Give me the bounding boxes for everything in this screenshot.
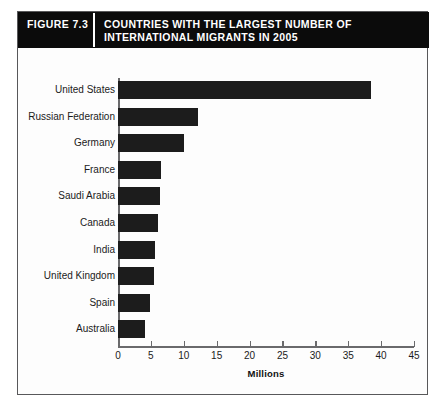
bar — [118, 214, 158, 232]
x-axis-tick — [348, 341, 349, 347]
x-axis-tick — [217, 341, 218, 347]
x-axis-tick — [282, 341, 283, 347]
bar — [118, 134, 184, 152]
bar — [118, 241, 155, 259]
x-axis-tick — [184, 341, 185, 347]
x-axis-tick — [250, 341, 251, 347]
category-label: Canada — [21, 217, 115, 229]
bar — [118, 108, 198, 126]
x-axis-tick-label: 5 — [136, 350, 166, 361]
x-axis-tick — [381, 341, 382, 347]
x-axis-title: Millions — [118, 368, 414, 379]
figure-number-label: FIGURE 7.3 — [18, 12, 93, 48]
bar — [118, 161, 161, 179]
figure-container: FIGURE 7.3 COUNTRIES WITH THE LARGEST NU… — [17, 11, 428, 395]
x-axis-line — [118, 346, 414, 348]
x-axis-tick-label: 10 — [169, 350, 199, 361]
chart-plot-area: United StatesRussian FederationGermanyFr… — [18, 48, 429, 395]
x-axis-tick-label: 35 — [333, 350, 363, 361]
bar — [118, 320, 145, 338]
x-axis-tick-label: 25 — [267, 350, 297, 361]
x-axis-tick-label: 40 — [366, 350, 396, 361]
x-axis-tick-label: 15 — [202, 350, 232, 361]
x-axis-tick — [118, 341, 119, 347]
category-label: Spain — [21, 297, 115, 309]
x-axis-tick-label: 45 — [399, 350, 429, 361]
bar — [118, 294, 150, 312]
x-axis-tick-label: 30 — [300, 350, 330, 361]
x-axis-tick-label: 0 — [103, 350, 133, 361]
x-axis-tick — [315, 341, 316, 347]
category-label: Germany — [21, 137, 115, 149]
figure-header-banner: FIGURE 7.3 COUNTRIES WITH THE LARGEST NU… — [18, 12, 429, 48]
category-label: United States — [21, 84, 115, 96]
category-label: France — [21, 164, 115, 176]
figure-title: COUNTRIES WITH THE LARGEST NUMBER OF INT… — [95, 12, 429, 48]
category-label: Saudi Arabia — [21, 190, 115, 202]
category-label: Russian Federation — [21, 111, 115, 123]
category-label: United Kingdom — [21, 270, 115, 282]
bar — [118, 267, 154, 285]
x-axis-tick — [414, 341, 415, 347]
x-axis-tick-label: 20 — [235, 350, 265, 361]
category-label: Australia — [21, 323, 115, 335]
x-axis-tick — [151, 341, 152, 347]
bar — [118, 81, 371, 99]
category-label: India — [21, 244, 115, 256]
bar — [118, 187, 160, 205]
